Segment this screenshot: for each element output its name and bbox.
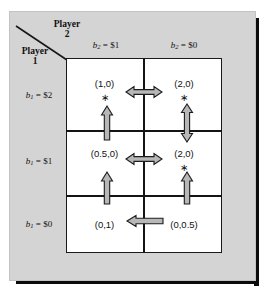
row-player-label: Player 1 bbox=[10, 46, 60, 66]
column-header-1: b2 = $0 bbox=[144, 40, 224, 50]
column-header-1-value: = $0 bbox=[179, 40, 198, 50]
up-arrow-icon bbox=[100, 106, 114, 140]
column-header-0: b2 = $1 bbox=[66, 40, 146, 50]
row-header-1-value: = $1 bbox=[34, 156, 53, 166]
left-arrow-icon bbox=[127, 214, 163, 228]
column-player-label: Player 2 bbox=[36, 20, 98, 39]
double-headed-horizontal-arrow-icon bbox=[126, 152, 162, 166]
row-header-1: b1 = $1 bbox=[12, 156, 66, 166]
double-headed-vertical-arrow-icon bbox=[180, 104, 194, 142]
column-player-label-line2: 2 bbox=[36, 30, 98, 40]
best-response-arrow-col1-upper-vertical bbox=[180, 104, 194, 142]
equilibrium-star: ∗ bbox=[146, 166, 222, 170]
best-response-arrow-row1-horizontal bbox=[126, 152, 162, 166]
best-response-arrow-row2-horizontal bbox=[127, 214, 163, 228]
row-header-0-value: = $2 bbox=[34, 90, 53, 100]
row-player-label-line1: Player bbox=[22, 46, 48, 56]
best-response-arrow-col0-upper-vertical bbox=[100, 106, 114, 140]
row-header-2: b1 = $0 bbox=[12, 219, 66, 229]
best-response-arrow-col0-lower-vertical bbox=[100, 172, 114, 204]
column-header-0-value: = $1 bbox=[101, 40, 120, 50]
up-arrow-icon bbox=[100, 172, 114, 204]
best-response-arrow-row0-horizontal bbox=[126, 85, 162, 99]
row-player-label-line2: 1 bbox=[10, 56, 60, 66]
up-arrow-icon bbox=[180, 172, 194, 204]
row-header-2-value: = $0 bbox=[34, 219, 53, 229]
column-player-label-line1: Player bbox=[54, 19, 80, 29]
figure-root: Player 2 Player 1 b2 = $1 b2 = $0 b1 = $… bbox=[0, 0, 265, 294]
row-header-0: b1 = $2 bbox=[12, 90, 66, 100]
best-response-arrow-col1-lower-vertical bbox=[180, 172, 194, 204]
double-headed-horizontal-arrow-icon bbox=[126, 85, 162, 99]
